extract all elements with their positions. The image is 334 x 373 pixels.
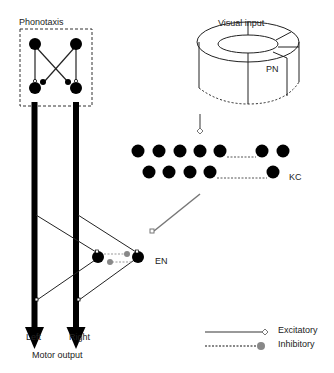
label-visual-input: Visual input [218, 19, 264, 28]
phonotaxis-neurons [29, 38, 82, 94]
pn-ring [197, 22, 299, 104]
legend-symbols [205, 329, 268, 350]
legend-inhibitory: Inhibitory [278, 340, 315, 349]
label-pn: PN [266, 65, 279, 74]
en-connections [36, 215, 137, 300]
en-neurons [92, 250, 144, 265]
label-en: EN [155, 257, 168, 266]
pn-to-kc-arrow [197, 114, 203, 134]
neural-circuit-diagram [0, 0, 334, 373]
label-left: Left [26, 333, 41, 342]
label-motor-output: Motor output [32, 351, 83, 360]
label-right: Right [69, 333, 90, 342]
kc-neurons [132, 145, 290, 179]
label-phonotaxis: Phonotaxis [19, 18, 64, 27]
label-kc: KC [289, 173, 302, 182]
motor-output-arrows [25, 102, 86, 349]
legend-excitatory: Excitatory [278, 326, 318, 335]
kc-to-en-arrow [150, 194, 200, 233]
